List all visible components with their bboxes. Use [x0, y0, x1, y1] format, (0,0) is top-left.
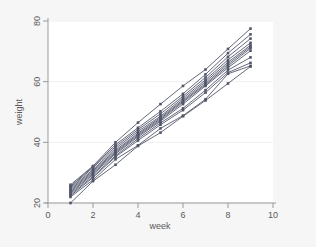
- y-tick-label-80: 80: [32, 16, 42, 26]
- data-point-subject-2-w8: [227, 52, 230, 55]
- data-point-subject-3-w9: [249, 37, 252, 40]
- data-point-subject-11-w1: [69, 196, 72, 199]
- data-point-subject-8-w7: [204, 85, 207, 88]
- data-point-subject-12-w7: [204, 99, 207, 102]
- data-point-subject-9-w9: [249, 56, 252, 59]
- data-point-subject-2-w7: [204, 73, 207, 76]
- data-point-subject-12-w5: [159, 131, 162, 134]
- data-point-subject-10-w9: [249, 62, 252, 65]
- data-point-subject-10-w5: [159, 123, 162, 126]
- data-point-subject-1-w5: [159, 103, 162, 106]
- data-point-subject-2-w5: [159, 110, 162, 113]
- data-point-subject-10-w4: [137, 139, 140, 142]
- data-point-subject-12-w2: [92, 180, 95, 183]
- data-point-subject-3-w7: [204, 76, 207, 79]
- data-point-subject-10-w6: [182, 109, 185, 112]
- x-tick-label-6: 6: [180, 210, 185, 220]
- x-tick-label-8: 8: [225, 210, 230, 220]
- data-point-subject-1-w3: [114, 141, 117, 144]
- data-point-subject-3-w8: [227, 55, 230, 58]
- data-point-subject-2-w6: [182, 93, 185, 96]
- data-point-subject-10-w7: [204, 91, 207, 94]
- chart-container: 20406080 0246810 weight week: [0, 0, 316, 247]
- data-point-subject-12-w4: [137, 145, 140, 148]
- data-point-subject-12-w8: [227, 82, 230, 85]
- data-point-subject-2-w9: [249, 33, 252, 36]
- data-point-subject-11-w3: [114, 158, 117, 161]
- data-point-subject-8-w6: [182, 103, 185, 106]
- data-point-subject-12-w6: [182, 115, 185, 118]
- y-tick-label-40: 40: [32, 137, 42, 147]
- data-point-subject-1-w9: [249, 27, 252, 30]
- data-point-subject-10-w3: [114, 156, 117, 159]
- data-point-subject-8-w8: [227, 66, 230, 69]
- data-point-subject-10-w2: [92, 176, 95, 179]
- data-point-subject-3-w5: [159, 113, 162, 116]
- y-tick-label-60: 60: [32, 77, 42, 87]
- data-point-subject-1-w8: [227, 48, 230, 51]
- y-axis-title: weight: [14, 98, 24, 126]
- data-point-subject-1-w4: [137, 121, 140, 124]
- data-point-subject-7-w9: [249, 47, 252, 50]
- x-axis-title: week: [148, 221, 171, 231]
- data-point-subject-9-w8: [227, 69, 230, 72]
- y-tick-label-20: 20: [32, 198, 42, 208]
- data-point-subject-9-w7: [204, 89, 207, 92]
- data-point-subject-12-w9: [249, 65, 252, 68]
- data-point-subject-11-w5: [159, 127, 162, 130]
- data-point-subject-12-w3: [114, 163, 117, 166]
- data-point-subject-4-w8: [227, 59, 230, 62]
- x-tick-label-2: 2: [90, 210, 95, 220]
- data-point-subject-1-w6: [182, 85, 185, 88]
- x-tick-label-0: 0: [45, 210, 50, 220]
- data-point-subject-1-w7: [204, 68, 207, 71]
- weight-by-week-line-chart: 20406080 0246810 weight week: [0, 0, 316, 247]
- x-tick-label-4: 4: [135, 210, 140, 220]
- data-point-subject-8-w9: [249, 49, 252, 52]
- data-point-subject-11-w8: [227, 72, 230, 75]
- data-point-subject-4-w9: [249, 42, 252, 45]
- x-tick-label-10: 10: [268, 210, 278, 220]
- data-point-subject-12-w1: [69, 202, 72, 205]
